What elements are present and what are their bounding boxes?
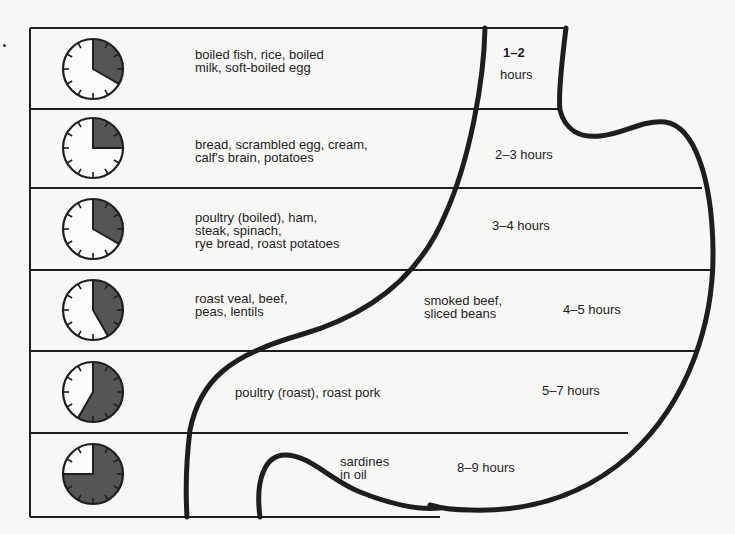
table-grid <box>30 28 712 517</box>
row-4-time: 4–5 hours <box>563 303 621 316</box>
row-3-time: 3–4 hours <box>492 219 550 232</box>
stomach-outline <box>186 28 713 517</box>
row-5-time: 5–7 hours <box>542 384 600 397</box>
row-4-extra-foods: smoked beef, sliced beans <box>424 294 502 320</box>
row-4-foods: roast veal, beef, peas, lentils <box>195 292 288 318</box>
clock-1-2-hours-icon <box>63 39 123 99</box>
clock-8-9-hours-icon <box>63 444 123 504</box>
row-1-foods: boiled fish, rice, boiled milk, soft-boi… <box>195 48 324 74</box>
row-1-time-unit: hours <box>500 68 533 81</box>
row-1-time-range: 1–2 <box>503 46 525 59</box>
clock-4-5-hours-icon <box>63 280 123 340</box>
row-2-foods: bread, scrambled egg, cream, calf's brai… <box>195 138 368 164</box>
clock-3-4-hours-icon <box>63 199 123 259</box>
row-3-foods: poultry (boiled), ham, steak, spinach, r… <box>195 211 340 250</box>
row-2-time: 2–3 hours <box>495 148 553 161</box>
row-6-foods: sardines in oil <box>340 455 389 481</box>
clock-5-7-hours-icon <box>63 362 123 422</box>
clock-2-3-hours-icon <box>63 118 123 178</box>
row-5-foods: poultry (roast), roast pork <box>235 386 380 399</box>
row-6-time: 8–9 hours <box>457 461 515 474</box>
